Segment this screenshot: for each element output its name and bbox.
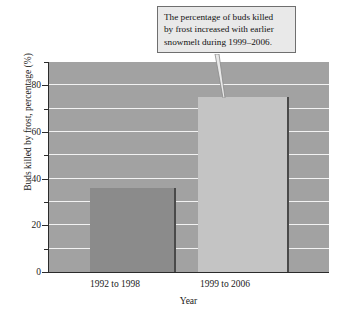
y-tick-40 (42, 179, 48, 180)
callout-line-3: snowmelt during 1999–2006. (164, 36, 290, 48)
y-tick-70 (44, 109, 48, 110)
y-tick-label-20: 20 (17, 221, 41, 231)
y-tick-0 (42, 272, 48, 273)
x-axis-title: Year (48, 296, 329, 306)
y-tick-label-0: 0 (17, 268, 41, 278)
gridline (48, 84, 329, 85)
x-axis-line (48, 272, 329, 273)
y-tick-20 (42, 225, 48, 226)
callout-line-1: The percentage of buds killed (164, 11, 290, 23)
callout-line-2: by frost increased with earlier (164, 23, 290, 35)
chart-figure: 0 20 40 60 80 Buds killed by frost, perc… (0, 0, 337, 318)
bar-1999-to-2006 (198, 97, 289, 272)
y-tick-10 (44, 249, 48, 250)
y-axis-title: Buds killed by frost, percentage (%) (23, 22, 33, 222)
y-axis-line (48, 62, 49, 273)
y-tick-90 (44, 62, 48, 63)
x-category-label-1: 1999 to 2006 (160, 279, 290, 289)
plot-area (48, 62, 329, 272)
y-tick-50 (44, 155, 48, 156)
bar-1992-to-1998 (90, 188, 176, 272)
y-tick-80 (42, 85, 48, 86)
callout-annotation: The percentage of buds killed by frost i… (157, 6, 296, 53)
y-tick-60 (42, 132, 48, 133)
y-tick-30 (44, 202, 48, 203)
